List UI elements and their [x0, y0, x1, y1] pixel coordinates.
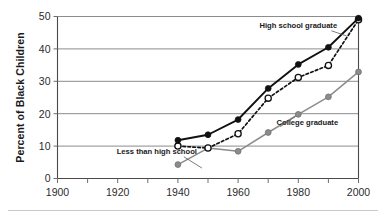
data-point-less-than-high-school-1960 [235, 131, 241, 137]
y-tick-label-30: 30 [39, 75, 51, 87]
chart-figure: 190019201940196019802000 01020304050 Per… [0, 0, 386, 216]
x-tick-label-1920: 1920 [106, 186, 130, 198]
data-point-less-than-high-school-1980 [295, 74, 301, 80]
data-point-less-than-high-school-1990 [325, 62, 331, 68]
y-tick-label-20: 20 [39, 108, 51, 120]
line-chart: 190019201940196019802000 01020304050 Per… [0, 0, 386, 216]
x-tick-label-1980: 1980 [287, 186, 311, 198]
data-point-high-school-graduate-1950 [205, 132, 211, 138]
data-point-high-school-graduate-1980 [295, 62, 301, 68]
data-point-college-graduate-1990 [326, 94, 332, 100]
x-tick-label-1960: 1960 [226, 186, 250, 198]
data-point-college-graduate-1970 [265, 130, 271, 136]
annotation-high-school-graduate: High school graduate [259, 21, 337, 30]
data-point-less-than-high-school-1970 [265, 95, 271, 101]
data-point-high-school-graduate-1960 [235, 117, 241, 123]
y-tick-label-40: 40 [39, 43, 51, 55]
y-axis-title: Percent of Black Children [14, 32, 26, 162]
data-point-high-school-graduate-1970 [265, 86, 271, 92]
y-tick-label-0: 0 [45, 172, 51, 184]
data-point-college-graduate-1980 [295, 111, 301, 117]
x-tick-label-1940: 1940 [166, 186, 190, 198]
data-point-high-school-graduate-1990 [326, 44, 332, 50]
data-point-college-graduate-1940 [175, 162, 181, 168]
data-point-high-school-graduate-1940 [175, 137, 181, 143]
annotation-less-than-high-school: Less than high school [117, 147, 197, 156]
x-tick-label-2000: 2000 [347, 186, 371, 198]
data-point-high-school-graduate-2000 [356, 15, 362, 21]
y-tick-label-10: 10 [39, 140, 51, 152]
data-point-college-graduate-1960 [235, 148, 241, 154]
data-point-college-graduate-2000 [356, 69, 362, 75]
y-tick-label-50: 50 [39, 10, 51, 22]
x-tick-label-1900: 1900 [46, 186, 70, 198]
data-point-less-than-high-school-1950 [205, 145, 211, 151]
